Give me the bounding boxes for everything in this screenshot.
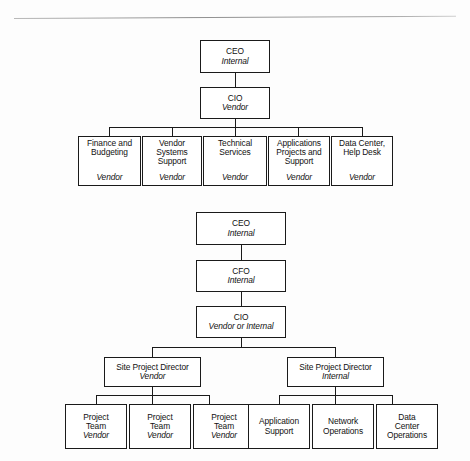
node-title: Applications Projects and Support (276, 139, 321, 166)
node-title: Data Center, Help Desk (339, 139, 385, 157)
org-chart-top: CEO Internal CIO Vendor Finance and Budg… (0, 0, 470, 200)
edge-stub-director-left (152, 347, 153, 357)
node-role: Vendor (349, 173, 375, 182)
node-project-team-3[interactable]: Project Team Vendor (193, 404, 255, 449)
edge-ceo-cfo (241, 245, 242, 260)
node-role: Vendor (211, 431, 237, 440)
node-role: Vendor (222, 103, 248, 112)
node-data-center-operations[interactable]: Data Center Operations (376, 404, 438, 449)
edge-stub-finance (109, 127, 110, 136)
node-vendor-systems-support[interactable]: Vendor Systems Support Vendor (142, 136, 202, 186)
edge-stub-project-team-2 (152, 395, 153, 404)
edge-stub-project-team-3 (209, 395, 210, 404)
node-role: Vendor (159, 173, 185, 182)
node-title: Project Team (83, 413, 108, 431)
node-title: Network Operations (323, 417, 363, 435)
node-ceo[interactable]: CEO Internal (200, 40, 270, 73)
node-title: Vendor Systems Support (156, 139, 187, 166)
edge-stub-project-team-1 (96, 395, 97, 404)
node-finance-and-budgeting[interactable]: Finance and Budgeting Vendor (78, 136, 141, 186)
org-chart-bottom: CEO Internal CFO Internal CIO Vendor or … (0, 200, 470, 461)
node-title: Application Support (259, 417, 299, 435)
edge-stub-data-center-operations (392, 395, 393, 404)
node-project-team-2[interactable]: Project Team Vendor (129, 404, 191, 449)
node-cio[interactable]: CIO Vendor (200, 87, 270, 119)
node-site-project-director-internal[interactable]: Site Project Director Internal (287, 357, 384, 387)
node-cfo[interactable]: CFO Internal (196, 260, 286, 292)
node-application-support[interactable]: Application Support (248, 404, 310, 449)
node-role: Vendor or Internal (209, 322, 274, 331)
node-role: Internal (227, 276, 254, 285)
node-cio[interactable]: CIO Vendor or Internal (196, 306, 286, 338)
edge-stub-application-support (279, 395, 280, 404)
edge-stub-director-right (335, 347, 336, 357)
node-role: Vendor (139, 372, 165, 381)
page-canvas: CEO Internal CIO Vendor Finance and Budg… (0, 0, 470, 461)
edge-bus-directors (152, 347, 335, 348)
node-site-project-director-vendor[interactable]: Site Project Director Vendor (104, 357, 201, 387)
node-data-center-help-desk[interactable]: Data Center, Help Desk Vendor (331, 136, 393, 186)
node-project-team-1[interactable]: Project Team Vendor (65, 404, 127, 449)
edge-stub-data-center (362, 127, 363, 136)
node-role: Internal (227, 229, 254, 238)
node-role: Vendor (222, 173, 248, 182)
node-title: Technical Services (218, 139, 252, 157)
node-title: Project Team (147, 413, 172, 431)
edge-ceo-cio (235, 73, 236, 87)
edge-stub-network-operations (335, 395, 336, 404)
node-network-operations[interactable]: Network Operations (312, 404, 374, 449)
node-role: Vendor (147, 431, 173, 440)
node-title: Finance and Budgeting (87, 139, 132, 157)
node-role: Internal (322, 372, 349, 381)
edge-cfo-cio (241, 292, 242, 306)
node-title: Project Team (211, 413, 236, 431)
node-role: Vendor (83, 431, 109, 440)
node-role: Internal (221, 57, 248, 66)
node-role: Vendor (96, 173, 122, 182)
node-applications-projects-and-support[interactable]: Applications Projects and Support Vendor (268, 136, 330, 186)
node-title: Data Center Operations (387, 413, 427, 440)
node-ceo[interactable]: CEO Internal (196, 212, 286, 245)
edge-stub-vendor-systems (172, 127, 173, 136)
edge-stub-applications (298, 127, 299, 136)
edge-stub-technical (235, 127, 236, 136)
node-role: Vendor (286, 173, 312, 182)
node-technical-services[interactable]: Technical Services Vendor (203, 136, 267, 186)
